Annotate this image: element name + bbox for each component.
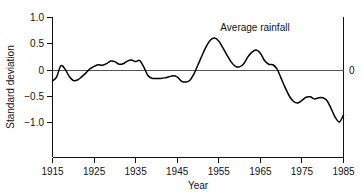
y-tick-label-neg0.5: −0.5 xyxy=(24,91,44,102)
x-tick-label-1985: 1985 xyxy=(332,166,355,177)
chart-plot-area: 1.0 0.5 0 −0.5 −1.0 0 1915 1925 1935 194… xyxy=(0,0,362,193)
y-tick-label-1.0: 1.0 xyxy=(30,12,44,23)
rainfall-standard-deviation-chart: 1.0 0.5 0 −0.5 −1.0 0 1915 1925 1935 194… xyxy=(0,0,362,193)
x-tick-label-1965: 1965 xyxy=(249,166,272,177)
right-axis-zero-label: 0 xyxy=(349,65,355,76)
rainfall-data-curve xyxy=(53,38,344,122)
x-tick-label-1945: 1945 xyxy=(166,166,189,177)
x-tick-label-1915: 1915 xyxy=(41,166,64,177)
x-tick-label-1955: 1955 xyxy=(208,166,231,177)
x-tick-label-1935: 1935 xyxy=(124,166,147,177)
x-tick-label-1925: 1925 xyxy=(83,166,106,177)
y-tick-label-0: 0 xyxy=(38,65,44,76)
x-tick-marks xyxy=(53,158,344,164)
y-tick-label-neg1.0: −1.0 xyxy=(24,117,44,128)
x-axis-title: Year xyxy=(188,180,209,191)
y-axis-title: Standard deviation xyxy=(5,45,16,128)
annotation-average-rainfall: Average rainfall xyxy=(220,22,289,33)
x-tick-label-1975: 1975 xyxy=(291,166,314,177)
y-tick-label-0.5: 0.5 xyxy=(30,38,44,49)
